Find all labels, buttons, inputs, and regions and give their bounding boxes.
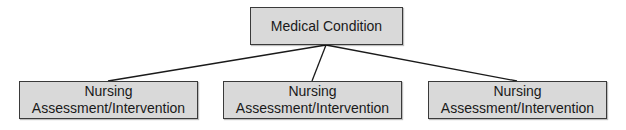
child-node-nursing-3: Nursing Assessment/Intervention bbox=[428, 81, 607, 119]
child-node-nursing-1: Nursing Assessment/Intervention bbox=[19, 81, 198, 119]
child-node-label-line2: Assessment/Intervention bbox=[32, 100, 185, 117]
child-node-label-line2: Assessment/Intervention bbox=[441, 100, 594, 117]
child-node-nursing-2: Nursing Assessment/Intervention bbox=[223, 81, 402, 119]
child-node-label-line1: Nursing bbox=[288, 83, 336, 100]
child-node-label-line1: Nursing bbox=[493, 83, 541, 100]
child-node-label-line2: Assessment/Intervention bbox=[236, 100, 389, 117]
connector-root-to-child-1 bbox=[108, 45, 326, 81]
connector-root-to-child-3 bbox=[326, 45, 517, 81]
root-node-label: Medical Condition bbox=[271, 18, 382, 35]
root-node-medical-condition: Medical Condition bbox=[250, 7, 403, 45]
connector-root-to-child-2 bbox=[312, 45, 326, 81]
child-node-label-line1: Nursing bbox=[84, 83, 132, 100]
